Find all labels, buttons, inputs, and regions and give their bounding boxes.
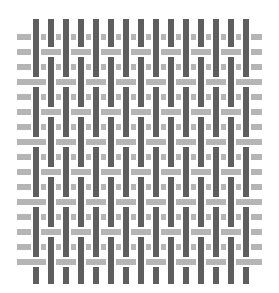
weft-segment — [56, 214, 61, 220]
weft-segment — [17, 49, 31, 55]
weft-segment — [71, 154, 76, 160]
weft-segment — [206, 79, 226, 85]
weft-segment — [221, 49, 241, 55]
warp-segment — [183, 147, 189, 197]
warp-segment — [108, 177, 114, 227]
weft-segment — [221, 124, 226, 130]
weft-segment — [221, 34, 226, 40]
weft-segment — [221, 94, 226, 100]
weft-segment — [176, 199, 196, 205]
warp-segment — [48, 237, 54, 284]
weft-segment — [191, 229, 211, 235]
weft-segment — [56, 244, 61, 250]
weft-segment — [131, 169, 151, 175]
warp-segment — [243, 267, 249, 284]
weft-segment — [131, 229, 151, 235]
weft-segment — [251, 64, 262, 70]
weft-segment — [131, 244, 136, 250]
warp-segment — [168, 117, 174, 167]
warp-segment — [228, 177, 234, 227]
warp-segment — [123, 207, 129, 257]
warp-segment — [33, 267, 39, 284]
warp-segment — [243, 207, 249, 257]
weft-segment — [101, 124, 106, 130]
weft-segment — [71, 49, 91, 55]
weft-segment — [206, 124, 211, 130]
weft-segment — [17, 229, 31, 235]
weft-segment — [17, 259, 46, 265]
warp-segment — [183, 19, 189, 77]
weft-segment — [17, 214, 31, 220]
weft-segment — [206, 34, 211, 40]
weft-segment — [191, 169, 211, 175]
weft-segment — [221, 184, 226, 190]
weft-segment — [41, 214, 46, 220]
warp-segment — [78, 117, 84, 167]
weft-segment — [191, 34, 196, 40]
warp-segment — [78, 177, 84, 227]
weft-segment — [236, 199, 262, 205]
warp-segment — [123, 87, 129, 137]
warp-segment — [33, 147, 39, 197]
weft-segment — [101, 34, 106, 40]
weft-segment — [41, 49, 61, 55]
warp-segment — [213, 267, 219, 284]
weft-segment — [56, 199, 76, 205]
weft-segment — [17, 109, 31, 115]
warp-segment — [108, 19, 114, 47]
weft-segment — [206, 214, 211, 220]
warp-segment — [168, 237, 174, 284]
weft-segment — [116, 94, 121, 100]
weft-segment — [41, 124, 46, 130]
weft-segment — [131, 109, 151, 115]
weft-segment — [56, 139, 76, 145]
warp-segment — [108, 237, 114, 284]
warp-segment — [153, 87, 159, 137]
warp-segment — [183, 87, 189, 137]
weft-segment — [146, 214, 151, 220]
weft-segment — [56, 154, 61, 160]
warp-segment — [108, 117, 114, 167]
weft-segment — [56, 79, 76, 85]
weft-segment — [56, 34, 61, 40]
weft-segment — [116, 79, 136, 85]
weft-segment — [206, 244, 211, 250]
weft-segment — [191, 94, 196, 100]
weft-segment — [251, 49, 262, 55]
warp-segment — [198, 237, 204, 284]
weft-segment — [71, 184, 76, 190]
weft-segment — [191, 244, 196, 250]
weft-segment — [176, 214, 181, 220]
weft-segment — [206, 94, 211, 100]
weft-segment — [146, 139, 166, 145]
warp-segment — [228, 237, 234, 284]
warp-segment — [138, 57, 144, 107]
warp-segment — [63, 267, 69, 284]
warp-segment — [93, 267, 99, 284]
warp-segment — [63, 19, 69, 77]
warp-segment — [168, 19, 174, 47]
weft-segment — [101, 184, 106, 190]
warp-segment — [243, 19, 249, 77]
warp-segment — [78, 57, 84, 107]
weft-segment — [86, 184, 91, 190]
weft-segment — [17, 34, 31, 40]
warp-segment — [78, 19, 84, 47]
weft-segment — [101, 154, 106, 160]
weft-segment — [71, 169, 91, 175]
weft-segment — [116, 124, 121, 130]
warp-segment — [108, 57, 114, 107]
warp-segment — [33, 87, 39, 137]
weft-segment — [17, 154, 31, 160]
weft-segment — [251, 169, 262, 175]
weft-segment — [176, 259, 196, 265]
weft-segment — [101, 49, 121, 55]
weft-segment — [161, 169, 181, 175]
weft-segment — [221, 169, 241, 175]
weft-segment — [71, 124, 76, 130]
weft-segment — [251, 229, 262, 235]
weft-segment — [86, 259, 106, 265]
weft-segment — [206, 184, 211, 190]
weft-segment — [221, 154, 226, 160]
weft-segment — [41, 229, 61, 235]
